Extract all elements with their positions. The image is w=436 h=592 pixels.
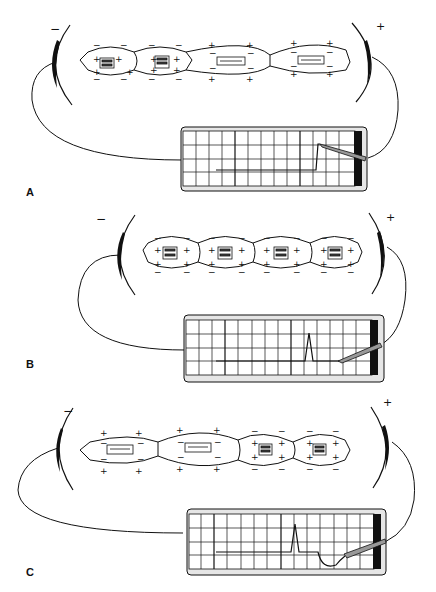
panel-b: −−−− ++++ −−−− ++++ −−−− ++++ −−−− ++++ … [0, 200, 436, 390]
panel-label-b: B [26, 358, 34, 370]
svg-text:+: + [126, 67, 134, 77]
svg-text:+: + [320, 259, 328, 269]
svg-text:+: + [176, 464, 184, 474]
svg-text:−: − [290, 61, 298, 71]
svg-text:−: − [154, 233, 162, 243]
svg-text:−: − [238, 233, 246, 243]
svg-text:+: + [213, 464, 221, 474]
charge-symbols: −− −− ++++ −− −− ++++ ++++ −−−− ++++ −−−… [93, 38, 334, 84]
svg-text:−: − [100, 438, 108, 448]
svg-text:+: + [293, 259, 301, 269]
left-electrode-sign: − [96, 212, 106, 226]
svg-text:−: − [177, 437, 185, 447]
svg-text:+: + [150, 54, 158, 64]
svg-text:−: − [251, 426, 259, 436]
ecg-recorder [187, 509, 386, 575]
panel-a: −− −− ++++ −− −− ++++ ++++ −−−− ++++ −−−… [0, 0, 436, 200]
svg-text:+: + [173, 65, 181, 75]
panel-b-diagram: −−−− ++++ −−−− ++++ −−−− ++++ −−−− ++++ … [0, 200, 436, 390]
left-electrode-sign: − [50, 22, 60, 36]
svg-text:+: + [293, 245, 301, 255]
svg-text:+: + [208, 245, 216, 255]
svg-text:+: + [320, 245, 328, 255]
svg-text:−: − [214, 452, 222, 462]
svg-text:−: − [347, 233, 355, 243]
svg-text:−: − [326, 61, 334, 71]
svg-text:−: − [183, 233, 191, 243]
svg-text:−: − [100, 454, 108, 464]
svg-text:−: − [177, 452, 185, 462]
svg-text:+: + [183, 245, 191, 255]
svg-text:+: + [213, 425, 221, 435]
svg-text:+: + [100, 428, 108, 438]
svg-text:+: + [115, 54, 123, 64]
svg-text:−: − [137, 454, 145, 464]
cell-chain [143, 237, 362, 269]
svg-text:+: + [263, 259, 271, 269]
svg-text:+: + [176, 425, 184, 435]
panel-label-a: A [26, 186, 34, 198]
svg-text:+: + [100, 466, 108, 476]
svg-text:−: − [278, 464, 286, 474]
svg-text:+: + [251, 438, 259, 448]
svg-text:−: − [332, 426, 340, 436]
svg-text:+: + [251, 452, 259, 462]
svg-text:+: + [306, 438, 314, 448]
svg-text:+: + [332, 438, 340, 448]
svg-text:+: + [173, 54, 181, 64]
svg-text:+: + [278, 438, 286, 448]
svg-text:−: − [278, 426, 286, 436]
svg-text:−: − [175, 40, 183, 50]
svg-text:+: + [93, 54, 101, 64]
svg-text:−: − [290, 47, 298, 57]
svg-text:−: − [148, 40, 156, 50]
svg-text:+: + [154, 245, 162, 255]
left-electrode-arc [55, 25, 72, 105]
svg-text:+: + [306, 452, 314, 462]
right-electrode-sign: + [383, 396, 392, 409]
svg-text:−: − [247, 48, 255, 58]
svg-text:−: − [148, 74, 156, 84]
svg-text:−: − [209, 48, 217, 58]
svg-text:−: − [93, 40, 101, 50]
ecg-recorder [181, 127, 367, 191]
charge-symbols: −−−− ++++ −−−− ++++ −−−− ++++ −−−− ++++ [154, 233, 355, 277]
svg-text:−: − [208, 233, 216, 243]
svg-text:−: − [326, 47, 334, 57]
svg-text:−: − [251, 464, 259, 474]
svg-text:−: − [306, 426, 314, 436]
svg-text:−: − [214, 437, 222, 447]
svg-text:+: + [347, 259, 355, 269]
svg-text:−: − [209, 63, 217, 73]
svg-text:+: + [263, 245, 271, 255]
svg-text:+: + [135, 428, 143, 438]
svg-text:+: + [238, 245, 246, 255]
svg-text:+: + [150, 65, 158, 75]
svg-text:−: − [293, 233, 301, 243]
svg-text:−: − [306, 464, 314, 474]
panel-label-c: C [26, 566, 34, 578]
panel-c-diagram: ++++ −−−− ++++ −−−− −−−− ++++ −−−− ++++ … [0, 390, 436, 592]
svg-text:+: + [208, 259, 216, 269]
right-electrode-sign: + [376, 20, 385, 33]
ecg-recorder [184, 315, 384, 382]
svg-text:−: − [137, 438, 145, 448]
svg-text:+: + [238, 259, 246, 269]
left-electrode-sign: − [63, 404, 73, 418]
svg-text:+: + [208, 74, 216, 84]
svg-text:+: + [246, 74, 254, 84]
svg-text:−: − [120, 40, 128, 50]
svg-text:−: − [263, 233, 271, 243]
svg-text:+: + [135, 466, 143, 476]
charge-symbols: ++++ −−−− ++++ −−−− −−−− ++++ −−−− ++++ [100, 425, 340, 476]
svg-text:+: + [332, 452, 340, 462]
svg-text:+: + [183, 259, 191, 269]
panel-c: ++++ −−−− ++++ −−−− −−−− ++++ −−−− ++++ … [0, 390, 436, 592]
right-wire [368, 57, 398, 158]
svg-text:+: + [278, 452, 286, 462]
panel-a-diagram: −− −− ++++ −− −− ++++ ++++ −−−− ++++ −−−… [0, 0, 436, 200]
svg-text:+: + [347, 245, 355, 255]
right-electrode-sign: + [386, 211, 395, 224]
svg-text:+: + [93, 67, 101, 77]
svg-text:−: − [332, 464, 340, 474]
